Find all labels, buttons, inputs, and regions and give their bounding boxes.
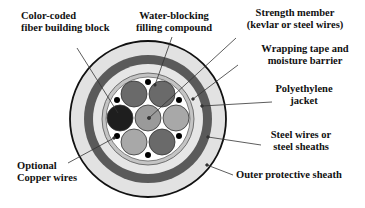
label-outer-line1: Outer protective sheath [236, 169, 342, 181]
label-tape-line2: moisture barrier [250, 55, 360, 67]
label-poly-line2: jacket [264, 95, 344, 107]
label-outer-protective-sheath: Outer protective sheath [236, 169, 342, 181]
label-steel-line1: Steel wires or [262, 129, 340, 141]
label-water-line2: filling compound [128, 22, 220, 34]
label-tape-line1: Wrapping tape and [250, 43, 360, 55]
label-fiber-line1: Color-coded [21, 10, 110, 22]
label-copper-line1: Optional [17, 160, 77, 172]
label-water-blocking-compound: Water-blocking filling compound [128, 10, 220, 34]
label-copper-line2: Copper wires [17, 172, 77, 184]
label-strength-member: Strength member (kevlar or steel wires) [232, 7, 358, 31]
fiber-block-bottom-left [121, 129, 147, 155]
fiber-block-right [163, 105, 189, 131]
fiber-block-bottom-right [149, 129, 175, 155]
label-poly-line1: Polyethylene [264, 83, 344, 95]
fiber-block-left [107, 105, 133, 131]
label-strength-line2: (kevlar or steel wires) [232, 19, 358, 31]
label-optional-copper-wires: Optional Copper wires [17, 160, 77, 184]
label-strength-line1: Strength member [232, 7, 358, 19]
label-polyethylene-jacket: Polyethylene jacket [264, 83, 344, 107]
label-fiber-line2: fiber building block [21, 22, 110, 34]
label-wrapping-tape: Wrapping tape and moisture barrier [250, 43, 360, 67]
fiber-block-top-left [121, 81, 147, 107]
label-fiber-building-block: Color-coded fiber building block [21, 10, 110, 34]
fiber-block-top-right [149, 81, 175, 107]
label-steel-line2: steel sheaths [262, 141, 340, 153]
label-steel-wires: Steel wires or steel sheaths [262, 129, 340, 153]
label-water-line1: Water-blocking [128, 10, 220, 22]
